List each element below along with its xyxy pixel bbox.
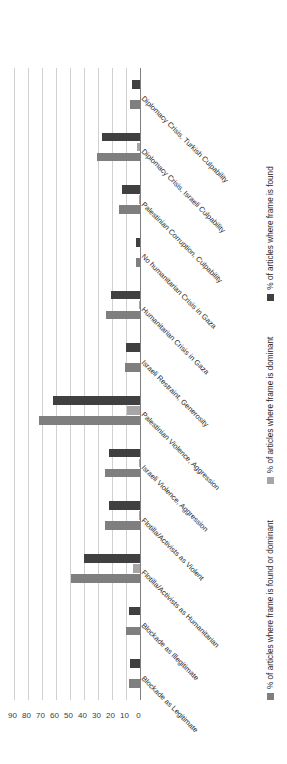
bar <box>132 80 140 89</box>
legend-label: % of articles where frame is found or do… <box>266 520 275 689</box>
bar <box>133 564 140 573</box>
legend-swatch-found-or-dominant <box>267 693 274 700</box>
bar <box>119 205 140 214</box>
legend-item: % of articles where frame is dominant <box>266 337 275 485</box>
bar-group <box>14 647 140 700</box>
bar <box>129 679 140 688</box>
bar <box>97 153 140 162</box>
bar-group <box>14 384 140 437</box>
bar <box>102 133 140 142</box>
legend-swatch-found <box>267 294 274 301</box>
legend-item: % of articles where frame is found <box>266 166 275 300</box>
bar <box>137 143 140 152</box>
bar-group <box>14 331 140 384</box>
chart-rotation-wrapper: 0102030405060708090 Blockade as Legitima… <box>0 0 287 764</box>
bar-chart: 0102030405060708090 Blockade as Legitima… <box>0 0 287 764</box>
category-label-text: Blockade as Legitimate <box>140 674 200 734</box>
value-tick-label: 90 <box>2 711 24 720</box>
bar <box>139 195 140 204</box>
bar <box>71 574 140 583</box>
bar <box>139 301 140 310</box>
bar <box>126 343 140 352</box>
bar <box>122 185 140 194</box>
bar-group <box>14 595 140 648</box>
bar-group <box>14 279 140 332</box>
chart-canvas: 0102030405060708090 Blockade as Legitima… <box>0 0 287 764</box>
bar-group <box>14 173 140 226</box>
value-axis-line <box>140 68 141 700</box>
bar <box>39 416 140 425</box>
legend-swatch-dominant <box>267 477 274 484</box>
bar <box>136 238 140 247</box>
bar <box>125 363 140 372</box>
bar <box>139 459 140 468</box>
legend-label: % of articles where frame is dominant <box>266 337 275 474</box>
bar-group <box>14 542 140 595</box>
bar <box>129 607 140 616</box>
bar <box>136 258 140 267</box>
bar-group <box>14 68 140 121</box>
bar <box>109 501 140 510</box>
bar <box>126 627 140 636</box>
bar <box>109 449 140 458</box>
bar <box>111 291 140 300</box>
bar-group <box>14 489 140 542</box>
bar <box>130 100 140 109</box>
bar-group <box>14 121 140 174</box>
bar <box>127 406 140 415</box>
bar <box>106 311 140 320</box>
chart-legend: % of articles where frame is found or do… <box>258 68 282 700</box>
bar <box>105 469 140 478</box>
category-label-text: Diplomacy Crisis, Israeli Culpability <box>140 147 228 235</box>
bar <box>139 511 140 520</box>
legend-label: % of articles where frame is found <box>266 166 275 289</box>
bar-group <box>14 437 140 490</box>
bar <box>130 659 140 668</box>
bar-group <box>14 226 140 279</box>
legend-item: % of articles where frame is found or do… <box>266 520 275 700</box>
bar <box>53 396 140 405</box>
plot-area <box>14 68 140 700</box>
bar <box>105 521 140 530</box>
bar <box>84 554 140 563</box>
category-label-text: Diplomacy Crisis, Turkish Culpability <box>140 94 231 185</box>
category-label-text: Blockade as Illegitimate <box>140 621 201 682</box>
